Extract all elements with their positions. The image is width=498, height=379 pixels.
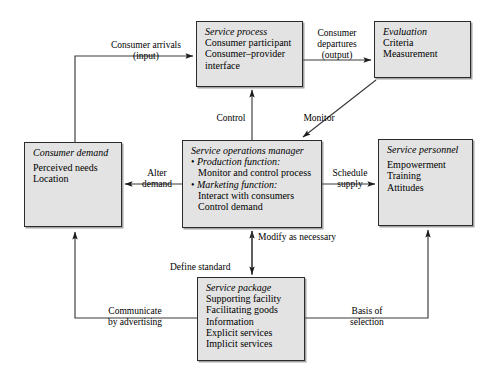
node-manager-bullet-marketing: Marketing function: <box>191 179 315 190</box>
node-consumer-demand[interactable]: Consumer demand Perceived needs Location <box>24 142 122 227</box>
node-manager-title: Service operations manager <box>191 145 315 156</box>
edge-label-alter-demand-line-1: Alter <box>135 168 179 179</box>
edge-monitor <box>303 80 376 137</box>
node-service-package-line-5: Implicit services <box>206 338 298 349</box>
node-service-process-line-2: Consumer–provider <box>205 48 296 59</box>
edge-label-schedule-supply-line-2: supply <box>325 179 375 190</box>
node-service-operations-manager[interactable]: Service operations manager Production fu… <box>182 140 322 228</box>
edge-label-alter-demand: Alter demand <box>135 168 179 190</box>
edge-label-alter-demand-line-2: demand <box>135 179 179 190</box>
edge-label-schedule-supply-line-1: Schedule <box>325 168 375 179</box>
node-consumer-demand-line-1: Perceived needs <box>33 162 115 173</box>
edge-label-control: Control <box>211 113 251 124</box>
node-service-personnel-line-3: Attitudes <box>387 182 466 193</box>
node-service-personnel[interactable]: Service personnel Empowerment Training A… <box>378 139 473 226</box>
node-manager-bullet-production: Production function: <box>191 156 315 167</box>
edge-label-consumer-departures-line-3: (output) <box>303 50 371 61</box>
node-service-personnel-line-1: Empowerment <box>387 159 466 170</box>
edge-label-monitor: Monitor <box>297 113 341 124</box>
node-service-package-line-4: Explicit services <box>206 327 298 338</box>
node-service-package-title: Service package <box>206 282 298 293</box>
edge-label-consumer-arrivals: Consumer arrivals (input) <box>89 40 203 62</box>
node-consumer-demand-title: Consumer demand <box>33 147 115 158</box>
diagram-canvas: Service process Consumer participant Con… <box>0 0 498 379</box>
edge-label-consumer-arrivals-line-1: Consumer arrivals <box>89 40 203 51</box>
edge-label-consumer-departures: Consumer departures (output) <box>303 28 371 61</box>
node-evaluation-line-1: Criteria <box>383 37 464 48</box>
edge-label-schedule-supply: Schedule supply <box>325 168 375 190</box>
node-service-process-title: Service process <box>205 26 296 37</box>
edge-label-basis-of-selection-line-1: Basis of <box>339 306 395 317</box>
edge-label-monitor-line-1: Monitor <box>297 113 341 124</box>
node-service-process[interactable]: Service process Consumer participant Con… <box>196 21 303 87</box>
edge-label-communicate-line-2: by advertising <box>99 317 171 328</box>
node-service-package-line-1: Supporting facility <box>206 293 298 304</box>
node-evaluation[interactable]: Evaluation Criteria Measurement <box>374 21 471 78</box>
edge-label-consumer-departures-line-2: departures <box>303 39 371 50</box>
edge-label-communicate-line-1: Communicate <box>99 306 171 317</box>
node-service-package[interactable]: Service package Supporting facility Faci… <box>197 277 305 361</box>
edge-label-define-standard-line-1: Define standard <box>170 262 250 273</box>
edge-label-define-standard: Define standard <box>170 262 250 273</box>
node-manager-production-detail: Monitor and control process <box>191 167 315 178</box>
edge-label-basis-of-selection-line-2: selection <box>339 317 395 328</box>
node-evaluation-line-2: Measurement <box>383 48 464 59</box>
node-service-personnel-title: Service personnel <box>387 144 466 155</box>
node-evaluation-title: Evaluation <box>383 26 464 37</box>
edge-consumer-arrivals <box>75 56 193 142</box>
node-service-package-line-3: Information <box>206 316 298 327</box>
node-service-personnel-line-2: Training <box>387 170 466 181</box>
edge-basis-of-selection <box>305 230 428 318</box>
edge-label-control-line-1: Control <box>211 113 251 124</box>
edge-label-basis-of-selection: Basis of selection <box>339 306 395 328</box>
edge-label-communicate-by-advertising: Communicate by advertising <box>99 306 171 328</box>
node-consumer-demand-line-2: Location <box>33 173 115 184</box>
node-service-package-line-2: Facilitating goods <box>206 304 298 315</box>
edge-label-modify-as-necessary-line-1: Modify as necessary <box>258 232 376 243</box>
node-manager-marketing-detail-2: Control demand <box>191 201 315 212</box>
node-manager-marketing-detail-1: Interact with consumers <box>191 190 315 201</box>
edge-label-modify-as-necessary: Modify as necessary <box>258 232 376 243</box>
edge-label-consumer-arrivals-line-2: (input) <box>89 51 203 62</box>
node-service-process-line-1: Consumer participant <box>205 37 296 48</box>
edge-label-consumer-departures-line-1: Consumer <box>303 28 371 39</box>
node-service-process-line-3: interface <box>205 60 296 71</box>
